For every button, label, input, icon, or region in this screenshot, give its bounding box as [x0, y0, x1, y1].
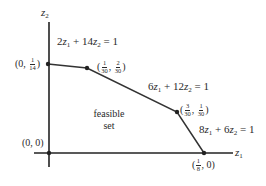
fraction: 130 [101, 60, 108, 75]
vertex-label-1-30-2-30: (130, 230) [97, 60, 126, 75]
constraint-label-3: 8z1 + 6z2 = 1 [199, 124, 255, 137]
coef: 12 [173, 80, 184, 92]
vertex-label-origin: (0, 0) [22, 138, 44, 148]
rhs: 1 [113, 35, 119, 47]
comma: , [109, 61, 112, 72]
vertex-1-8-0 [202, 151, 206, 155]
vertex-1-30-2-30 [85, 66, 89, 70]
paren: ( [180, 104, 183, 115]
plus: + [164, 80, 170, 92]
vertex-origin [47, 151, 51, 155]
denominator: 30 [115, 68, 122, 75]
plus: + [73, 35, 79, 47]
denominator: 14 [29, 65, 36, 72]
z2-axis-label: z2 [41, 7, 49, 20]
coef: 14 [82, 35, 93, 47]
denominator: 30 [101, 68, 108, 75]
comma: , [192, 104, 195, 115]
sub: 1 [158, 86, 162, 94]
z1-axis-label: z1 [235, 147, 243, 160]
denominator: 8 [197, 166, 200, 173]
coord-text: (0, 0) [22, 137, 44, 148]
equals: = [195, 80, 201, 92]
vertex-0-1-14 [46, 62, 50, 66]
paren: ( [192, 159, 195, 170]
denominator: 30 [184, 111, 191, 118]
constraint-label-1: 2z1 + 14z2 = 1 [57, 36, 118, 49]
vertex-label-0-1-14: (0, 114) [15, 57, 40, 72]
denominator: 30 [198, 111, 205, 118]
constraint-label-2: 6z1 + 12z2 = 1 [148, 81, 209, 94]
sub: 1 [209, 129, 213, 137]
plus: + [215, 123, 221, 135]
vertex-label-3-30-1-30: (330, 130) [180, 103, 209, 118]
z1-sub: 1 [239, 152, 243, 160]
paren: ) [37, 58, 40, 69]
fraction: 130 [198, 103, 205, 118]
fraction: 18 [196, 158, 200, 173]
rhs: 1 [249, 123, 255, 135]
sub: 2 [234, 129, 238, 137]
rhs: 1 [204, 80, 210, 92]
vertex-label-1-8-0: (18, 0) [192, 158, 215, 173]
paren: ( [97, 61, 100, 72]
fraction: 330 [184, 103, 191, 118]
equals: = [104, 35, 110, 47]
sub: 2 [97, 41, 101, 49]
fraction: 230 [115, 60, 122, 75]
paren: ) [205, 104, 208, 115]
comma: , [202, 159, 205, 170]
equals: = [240, 123, 246, 135]
comma: , [23, 58, 26, 69]
sub: 1 [67, 41, 71, 49]
z2-sub: 2 [45, 12, 49, 20]
sub: 2 [188, 86, 192, 94]
feasible-region-diagram [0, 0, 266, 186]
vertex-3-30-1-30 [175, 110, 179, 114]
feasible-set-label: feasible set [90, 108, 128, 132]
feasible-text: feasible [90, 108, 128, 120]
paren: ) [122, 61, 125, 72]
fraction: 114 [29, 57, 36, 72]
set-text: set [90, 120, 128, 132]
paren: ) [212, 159, 215, 170]
